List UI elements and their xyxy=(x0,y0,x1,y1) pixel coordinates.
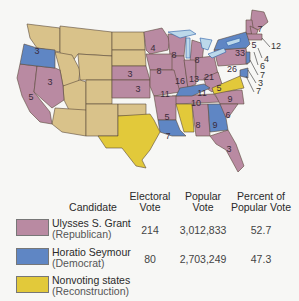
state-south-dakota xyxy=(112,50,146,66)
label-illinois: 16 xyxy=(175,76,185,86)
label-indiana: 13 xyxy=(189,74,199,84)
label-georgia: 9 xyxy=(212,120,217,130)
label-florida: 3 xyxy=(226,144,231,154)
label-california: 5 xyxy=(28,92,33,102)
label-new-hampshire: 5 xyxy=(251,40,256,50)
callout-massachusetts: 12 xyxy=(271,41,281,51)
label-maine: 7 xyxy=(257,24,262,34)
candidate-party: (Republican) xyxy=(52,229,131,240)
header-popular: Popular Vote xyxy=(180,191,226,213)
candidate-name: Ulysses S. Grant (Republican) xyxy=(52,218,131,240)
label-alabama: 8 xyxy=(195,120,200,130)
state-kansas xyxy=(112,80,150,98)
label-minnesota: 4 xyxy=(150,43,155,53)
popular-vote: 2,703,249 xyxy=(176,253,230,265)
label-ohio: 21 xyxy=(204,72,214,82)
candidate-name: Nonvoting states (Reconstruction) xyxy=(52,275,130,297)
popular-vote: 3,012,833 xyxy=(176,224,230,236)
header-popular-line2: Vote xyxy=(180,202,226,213)
label-west-virginia: 5 xyxy=(216,83,221,93)
state-colorado xyxy=(86,80,112,104)
label-kentucky: 11 xyxy=(197,88,206,98)
label-missouri: 11 xyxy=(160,89,169,99)
label-tennessee: 10 xyxy=(191,98,201,108)
legend-swatch-nonvoting xyxy=(16,276,49,293)
election-map-1868: 3 5 3 3 3 4 8 8 8 16 13 21 11 11 5 26 33… xyxy=(0,0,299,185)
state-minnesota xyxy=(144,28,170,54)
label-oregon: 3 xyxy=(34,46,39,56)
state-new-jersey xyxy=(246,52,250,64)
state-new-mexico xyxy=(86,104,118,136)
row-grant: Ulysses S. Grant (Republican) 214 3,012,… xyxy=(0,215,299,245)
row-nonvoting: Nonvoting states (Reconstruction) xyxy=(0,272,299,301)
row-seymour: Horatio Seymour (Democrat) 80 2,703,249 … xyxy=(0,244,299,274)
label-louisiana: 7 xyxy=(165,131,170,141)
percent-popular-vote: 47.3 xyxy=(230,253,292,265)
state-utah xyxy=(63,80,86,112)
label-kansas: 3 xyxy=(135,84,140,94)
state-indian-territory xyxy=(118,104,146,116)
label-arkansas: 5 xyxy=(164,112,169,122)
label-nevada: 3 xyxy=(47,77,52,87)
label-pennsylvania: 26 xyxy=(227,64,237,74)
label-new-york: 33 xyxy=(235,48,245,58)
state-arizona xyxy=(52,108,86,136)
state-north-dakota xyxy=(112,32,145,50)
header-percent-line2: Popular Vote xyxy=(228,202,294,213)
callout-maryland: 7 xyxy=(256,86,261,96)
state-maryland-delaware xyxy=(240,68,248,78)
state-wyoming xyxy=(78,54,112,80)
candidate-party: (Reconstruction) xyxy=(52,286,130,297)
lake-michigan xyxy=(186,38,190,58)
electoral-vote: 214 xyxy=(126,224,174,236)
label-iowa: 8 xyxy=(156,66,161,76)
lake-huron xyxy=(200,38,212,50)
legend-swatch-democrat xyxy=(16,248,49,265)
label-michigan: 8 xyxy=(194,55,199,65)
electoral-vote: 80 xyxy=(126,253,174,265)
legend-swatch-republican xyxy=(16,219,49,236)
candidate-party: (Democrat) xyxy=(52,258,131,269)
label-south-carolina: 6 xyxy=(225,110,230,120)
header-candidate: Candidate xyxy=(66,202,120,213)
percent-popular-vote: 52.7 xyxy=(230,224,292,236)
label-nebraska: 3 xyxy=(127,69,132,79)
candidate-name: Horatio Seymour (Democrat) xyxy=(52,247,131,269)
header-electoral: Electoral Vote xyxy=(126,191,174,213)
label-wisconsin: 8 xyxy=(171,50,176,60)
header-percent: Percent of Popular Vote xyxy=(228,191,294,213)
label-north-carolina: 9 xyxy=(227,94,232,104)
header-electoral-line2: Vote xyxy=(126,202,174,213)
